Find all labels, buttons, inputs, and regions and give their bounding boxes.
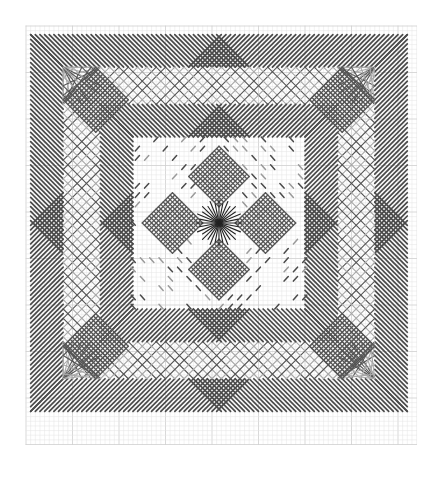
stitch-chart <box>0 0 443 478</box>
center-star-eyelet-icon <box>196 200 243 247</box>
